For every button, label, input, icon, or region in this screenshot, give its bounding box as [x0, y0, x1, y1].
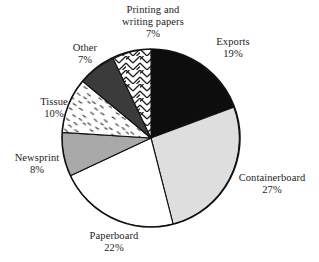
- pie-label-exports: Exports 19%: [190, 36, 276, 60]
- pie-label-other: Other 7%: [52, 42, 118, 66]
- pie-label-exports-value: 19%: [190, 48, 276, 60]
- pie-label-paperboard-name: Paperboard: [62, 230, 166, 242]
- pie-label-paperboard-value: 22%: [62, 242, 166, 254]
- pie-label-containerboard: Containerboard 27%: [226, 172, 318, 196]
- pie-label-newsprint-name: Newsprint: [0, 152, 74, 164]
- pie-label-containerboard-name: Containerboard: [226, 172, 318, 184]
- pie-label-paperboard: Paperboard 22%: [62, 230, 166, 254]
- pie-label-other-value: 7%: [52, 54, 118, 66]
- pie-label-newsprint-value: 8%: [0, 164, 74, 176]
- pie-label-other-name: Other: [52, 42, 118, 54]
- pie-label-exports-name: Exports: [190, 36, 276, 48]
- pie-label-tissue-value: 10%: [18, 108, 90, 120]
- pie-label-tissue: Tissue 10%: [18, 96, 90, 120]
- pie-label-containerboard-value: 27%: [226, 184, 318, 196]
- pie-label-newsprint: Newsprint 8%: [0, 152, 74, 176]
- pie-label-printing-line1: Printing and: [98, 4, 208, 16]
- pie-label-printing-line2: writing papers: [98, 16, 208, 28]
- pie-chart: Printing and writing papers 7% Exports 1…: [0, 0, 319, 262]
- pie-label-tissue-name: Tissue: [18, 96, 90, 108]
